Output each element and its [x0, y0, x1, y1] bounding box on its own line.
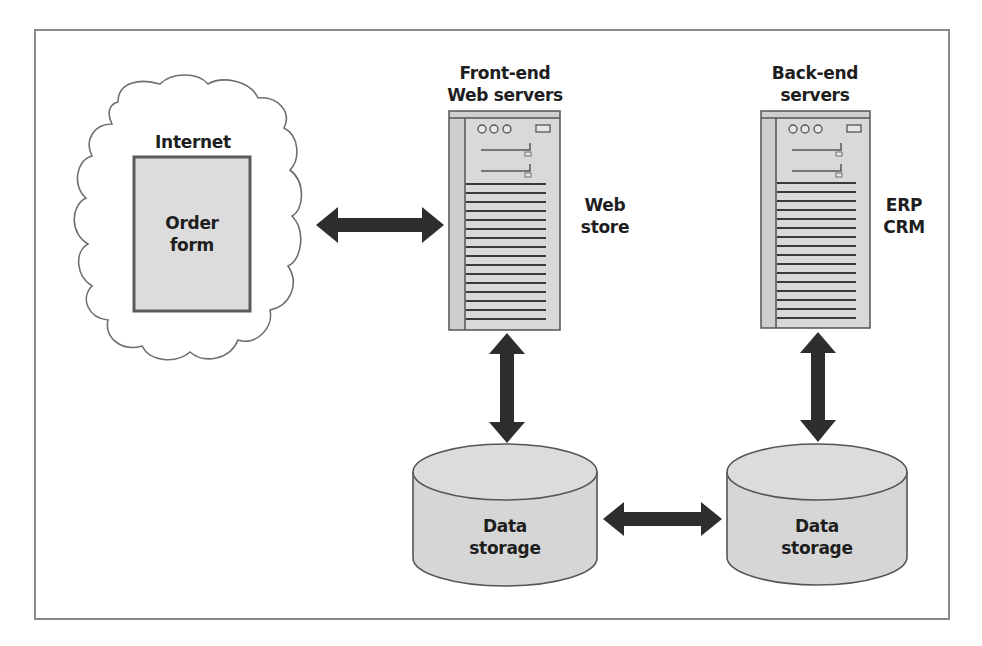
- arrow-internet-frontend-icon: [316, 207, 444, 243]
- front-end-title-line2: Web servers: [434, 84, 576, 106]
- arrow-frontend-storage-icon: [489, 333, 525, 443]
- data-storage-left-label: Data storage: [450, 515, 560, 559]
- order-form-label-line2: form: [134, 234, 250, 256]
- order-form-label: Order form: [134, 212, 250, 256]
- front-end-server-icon: [449, 111, 560, 330]
- back-end-title: Back-end servers: [760, 62, 870, 106]
- data-storage-left-line1: Data: [450, 515, 560, 537]
- back-end-title-line1: Back-end: [760, 62, 870, 84]
- internet-label: Internet: [140, 131, 246, 153]
- arrow-storage-storage-icon: [603, 502, 722, 536]
- arrow-backend-storage-icon: [800, 332, 836, 442]
- crm-label: CRM: [876, 216, 932, 238]
- web-store-label-line2: store: [572, 216, 638, 238]
- web-store-label: Web store: [572, 194, 638, 238]
- back-end-server-icon: [761, 111, 870, 328]
- web-store-label-line1: Web: [572, 194, 638, 216]
- data-storage-left-line2: storage: [450, 537, 560, 559]
- front-end-title-line1: Front-end: [434, 62, 576, 84]
- data-storage-right-line1: Data: [762, 515, 872, 537]
- order-form-label-line1: Order: [134, 212, 250, 234]
- erp-crm-label: ERP CRM: [876, 194, 932, 238]
- data-storage-right-line2: storage: [762, 537, 872, 559]
- back-end-title-line2: servers: [760, 84, 870, 106]
- data-storage-right-label: Data storage: [762, 515, 872, 559]
- front-end-title: Front-end Web servers: [434, 62, 576, 106]
- erp-label: ERP: [876, 194, 932, 216]
